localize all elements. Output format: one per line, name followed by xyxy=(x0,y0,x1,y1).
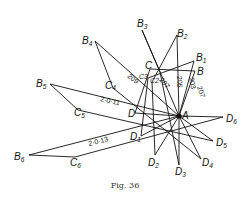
label-c4: C4 xyxy=(105,80,116,91)
label-d6: D6 xyxy=(226,113,237,125)
label-b3: B3 xyxy=(137,18,148,30)
label-c: C xyxy=(145,60,153,71)
quad-3 xyxy=(142,30,179,165)
label-b: B xyxy=(197,66,204,77)
label-b5: B5 xyxy=(36,78,47,90)
figure-caption: Fig. 36 xyxy=(0,181,250,190)
label-d4: D4 xyxy=(202,157,213,169)
angle-label-207-right: 207 xyxy=(196,85,206,98)
label-c5: C5 xyxy=(74,107,85,119)
label-c2: C2 xyxy=(150,77,159,84)
angle-label-205: 205 xyxy=(176,76,183,88)
figure-diagram: A B B1 B2 B3 B4 B5 B6 C C4 C5 C6 D D1 D2… xyxy=(0,0,250,205)
label-c3: C3 xyxy=(139,73,148,80)
angle-label-207-center: 207 xyxy=(158,76,171,90)
label-d1: D1 xyxy=(130,131,141,143)
angle-label-2-0-13: 2·0·13 xyxy=(88,135,109,147)
label-d3: D3 xyxy=(175,166,186,178)
label-b1: B1 xyxy=(196,52,207,64)
label-d5: D5 xyxy=(216,137,227,149)
angle-label-209: 209 xyxy=(126,72,140,85)
point-a-marker xyxy=(176,113,181,118)
label-a: A xyxy=(181,110,189,121)
label-b4: B4 xyxy=(82,35,93,47)
angle-label-2-0-11: 2·0·11 xyxy=(100,95,121,106)
label-b2: B2 xyxy=(177,28,188,40)
label-d2: D2 xyxy=(148,157,159,169)
label-b6: B6 xyxy=(14,151,25,163)
construction-lines xyxy=(29,30,223,165)
label-c6: C6 xyxy=(70,157,81,169)
label-d: D xyxy=(128,108,135,119)
